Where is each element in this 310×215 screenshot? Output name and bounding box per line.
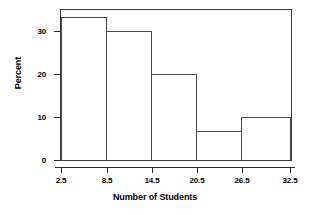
x-axis-tick-label: 20.5 xyxy=(180,176,214,185)
x-axis-tick-label: 26.5 xyxy=(225,176,259,185)
y-axis-tick-label: 20 xyxy=(0,70,46,79)
x-axis-tick-label: 14.5 xyxy=(135,176,169,185)
histogram-bar xyxy=(196,131,242,160)
x-axis-tick xyxy=(107,167,108,173)
histogram-bar xyxy=(61,17,107,160)
x-axis-tick xyxy=(290,167,291,173)
x-axis-tick-label: 2.5 xyxy=(44,176,78,185)
histogram-bar xyxy=(151,74,197,160)
histogram-bar xyxy=(106,31,152,160)
y-axis-line xyxy=(60,9,61,161)
x-axis-line xyxy=(55,167,295,168)
y-axis-tick-label: 10 xyxy=(0,113,46,122)
x-axis-tick xyxy=(197,167,198,173)
x-axis-tick xyxy=(242,167,243,173)
y-axis-tick xyxy=(54,31,60,32)
x-axis-tick-label: 8.5 xyxy=(90,176,124,185)
bars-layer xyxy=(61,10,291,160)
y-axis-title: Percent xyxy=(13,43,23,103)
x-axis-tick xyxy=(61,167,62,173)
y-axis-tick-label: 0 xyxy=(0,156,46,165)
histogram-bar xyxy=(241,117,291,160)
x-axis-title: Number of Students xyxy=(0,192,310,202)
y-axis-tick xyxy=(54,160,60,161)
x-axis-tick xyxy=(152,167,153,173)
x-axis-tick-label: 32.5 xyxy=(273,176,307,185)
y-axis-tick-label: 30 xyxy=(0,27,46,36)
y-axis-tick xyxy=(54,117,60,118)
histogram-chart: 0 10 20 30 Percent 2.5 8.5 14.5 20.5 26.… xyxy=(0,0,310,215)
y-axis-tick xyxy=(54,74,60,75)
